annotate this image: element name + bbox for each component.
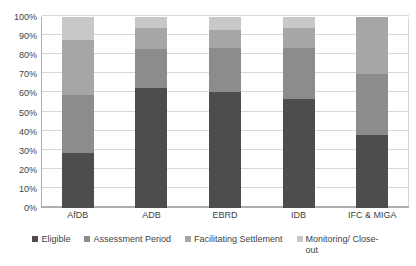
- x-tick-label: IFC & MIGA: [348, 210, 397, 221]
- legend-swatch-icon: [32, 236, 38, 242]
- y-tick-label: 20%: [19, 165, 37, 174]
- x-tick-label: EBRD: [212, 210, 237, 221]
- y-tick-label: 30%: [19, 146, 37, 155]
- legend-label: Monitoring/ Close-out: [306, 234, 384, 256]
- gridline: [42, 15, 409, 16]
- bar-stack: [209, 17, 241, 208]
- legend-swatch-icon: [297, 236, 303, 242]
- bar-group[interactable]: [283, 17, 315, 208]
- legend-swatch-icon: [185, 236, 191, 242]
- bar-segment[interactable]: [62, 40, 94, 95]
- bar-segment[interactable]: [209, 48, 241, 92]
- bar-stack: [135, 17, 167, 208]
- bar-group[interactable]: [135, 17, 167, 208]
- y-tick-label: 10%: [19, 184, 37, 193]
- legend-swatch-icon: [84, 236, 90, 242]
- legend-label: Assessment Period: [93, 234, 171, 245]
- x-axis: AfDBADBEBRDIDBIFC & MIGA: [41, 210, 409, 224]
- legend-item[interactable]: Monitoring/ Close-out: [297, 234, 384, 256]
- bars-layer: [41, 17, 409, 208]
- bar-segment[interactable]: [135, 49, 167, 87]
- bar-stack: [283, 17, 315, 208]
- bar-segment[interactable]: [209, 30, 241, 47]
- bar-segment[interactable]: [356, 74, 388, 135]
- bar-group[interactable]: [356, 17, 388, 208]
- x-tick-label: ADB: [142, 210, 161, 221]
- bar-segment[interactable]: [209, 92, 241, 209]
- legend-label: Facilitating Settlement: [194, 234, 283, 245]
- y-tick-label: 50%: [19, 108, 37, 117]
- y-axis: 100%90%80%70%60%50%40%30%20%10%0%: [0, 17, 37, 208]
- bar-segment[interactable]: [283, 48, 315, 100]
- bar-segment[interactable]: [62, 17, 94, 40]
- legend-item[interactable]: Assessment Period: [84, 234, 171, 245]
- bar-segment[interactable]: [209, 17, 241, 30]
- bar-segment[interactable]: [283, 99, 315, 208]
- chart-legend: EligibleAssessment PeriodFacilitating Se…: [0, 234, 416, 264]
- bar-stack: [356, 17, 388, 208]
- bar-segment[interactable]: [283, 17, 315, 28]
- y-tick-label: 60%: [19, 89, 37, 98]
- bar-segment[interactable]: [62, 153, 94, 208]
- bar-segment[interactable]: [135, 88, 167, 208]
- x-tick-label: IDB: [291, 210, 306, 221]
- y-tick-label: 0%: [24, 204, 37, 213]
- bar-stack: [62, 17, 94, 208]
- x-tick-label: AfDB: [67, 210, 88, 221]
- bar-segment[interactable]: [62, 95, 94, 152]
- bar-segment[interactable]: [135, 17, 167, 28]
- legend-item[interactable]: Facilitating Settlement: [185, 234, 283, 245]
- bar-segment[interactable]: [283, 28, 315, 47]
- y-tick-label: 40%: [19, 127, 37, 136]
- legend-label: Eligible: [41, 234, 70, 245]
- y-tick-label: 100%: [14, 13, 37, 22]
- bar-segment[interactable]: [356, 17, 388, 74]
- bar-group[interactable]: [62, 17, 94, 208]
- bar-group[interactable]: [209, 17, 241, 208]
- y-tick-label: 90%: [19, 32, 37, 41]
- bar-segment[interactable]: [356, 135, 388, 208]
- stacked-bar-chart: 100%90%80%70%60%50%40%30%20%10%0% AfDBAD…: [0, 0, 416, 266]
- y-tick-label: 80%: [19, 51, 37, 60]
- legend-item[interactable]: Eligible: [32, 234, 70, 245]
- y-tick-label: 70%: [19, 70, 37, 79]
- bar-segment[interactable]: [135, 28, 167, 49]
